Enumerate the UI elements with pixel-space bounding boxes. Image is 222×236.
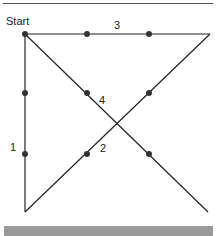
dot: [84, 90, 90, 96]
line-label-4: 4: [99, 94, 105, 106]
dot: [84, 31, 90, 37]
dot: [146, 151, 152, 157]
line-label-2: 2: [100, 142, 106, 154]
line-label-1: 1: [10, 141, 16, 153]
nine-dot-diagram: Start 1 2 3 4: [0, 0, 222, 236]
dot: [84, 151, 90, 157]
start-label: Start: [6, 15, 29, 27]
dot: [22, 90, 28, 96]
bottom-bar: [4, 226, 213, 236]
dot: [146, 31, 152, 37]
dot: [146, 90, 152, 96]
dot: [22, 31, 28, 37]
line-label-3: 3: [114, 19, 120, 31]
dot: [22, 151, 28, 157]
